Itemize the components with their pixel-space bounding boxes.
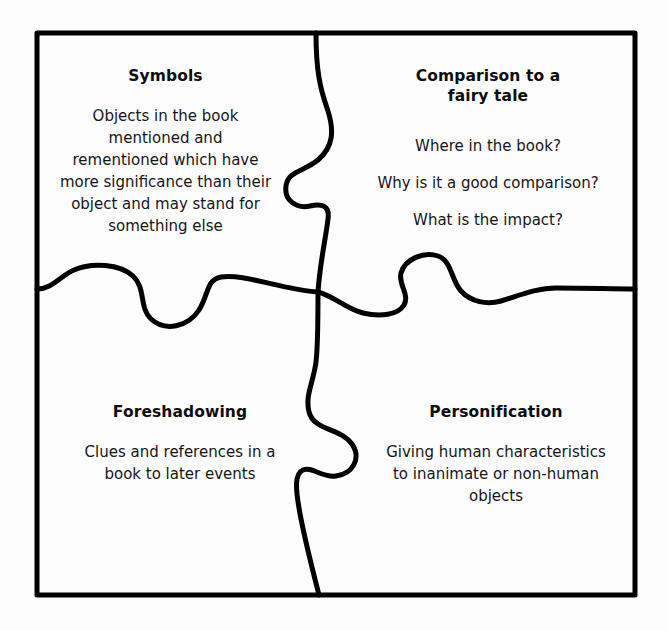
quadrant-personification-title: Personification [378,402,614,422]
quadrant-personification-body: Giving human characteristics to inanimat… [378,441,614,507]
divider-vertical-upper [286,33,332,292]
quadrant-foreshadowing-body: Clues and references in a book to later … [62,441,298,485]
quadrant-foreshadowing-title: Foreshadowing [62,402,298,422]
quadrant-comparison-body: Where in the book? Why is it a good comp… [372,128,604,239]
quadrant-symbols-title: Symbols [48,66,283,86]
quadrant-symbols-body: Objects in the book mentioned and rement… [48,105,283,237]
puzzle-diagram: Symbols Objects in the book mentioned an… [0,0,668,631]
divider-horizontal-left [37,265,318,326]
quadrant-comparison-title: Comparison to a fairy tale [372,66,604,106]
divider-vertical-lower [296,292,356,595]
quadrant-comparison: Comparison to a fairy tale Where in the … [372,66,604,239]
divider-horizontal-right [318,255,635,315]
quadrant-foreshadowing: Foreshadowing Clues and references in a … [62,402,298,485]
quadrant-personification: Personification Giving human characteris… [378,402,614,507]
quadrant-symbols: Symbols Objects in the book mentioned an… [48,66,283,237]
